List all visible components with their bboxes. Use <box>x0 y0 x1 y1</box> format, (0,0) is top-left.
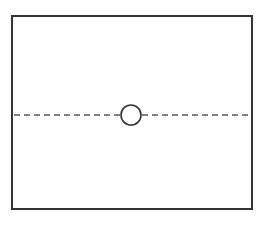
center-circle <box>121 105 141 125</box>
diagram-canvas <box>0 0 268 225</box>
outer-frame <box>12 16 252 209</box>
